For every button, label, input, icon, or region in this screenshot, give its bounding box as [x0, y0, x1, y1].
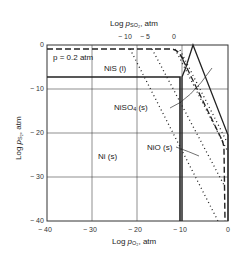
region-ni: Ni (s)	[98, 152, 117, 161]
x-tick: − 20	[128, 226, 142, 234]
pressure-label: p = 0.2 atm	[53, 53, 93, 62]
x-tick: 0	[226, 226, 230, 234]
x-tick: − 40	[38, 226, 52, 234]
top-tick: − 10	[118, 33, 132, 41]
top-tick: 0	[172, 33, 176, 41]
y-axis-label: Log pS₂, atm	[14, 116, 23, 160]
top-tick: − 5	[140, 33, 150, 41]
y-tick: 0	[40, 41, 44, 49]
grid-lines	[47, 45, 228, 221]
dashed-diagonal	[183, 60, 222, 140]
niso4-leader	[170, 68, 212, 108]
x-tick: − 10	[173, 226, 187, 234]
y-tick: − 30	[30, 173, 44, 181]
y-tick: − 10	[30, 85, 44, 93]
so2-isobars	[130, 49, 227, 221]
predominance-diagram: Log pSO₂, atm − 10 − 5 0 0 − 10 − 20 − 3…	[0, 0, 243, 255]
top-axis-label: Log pSO₂, atm	[110, 19, 158, 30]
y-tick: − 40	[30, 217, 44, 225]
y-tick: − 20	[30, 129, 44, 137]
region-nis: NiS (l)	[104, 64, 126, 73]
x-axis-label: Log pO₂, atm	[112, 237, 156, 248]
region-nio: NiO (s)	[147, 143, 172, 152]
region-niso4: NiSO4 (s)	[114, 103, 148, 114]
x-tick: − 30	[83, 226, 97, 234]
dashed-boundary-right	[222, 140, 225, 221]
